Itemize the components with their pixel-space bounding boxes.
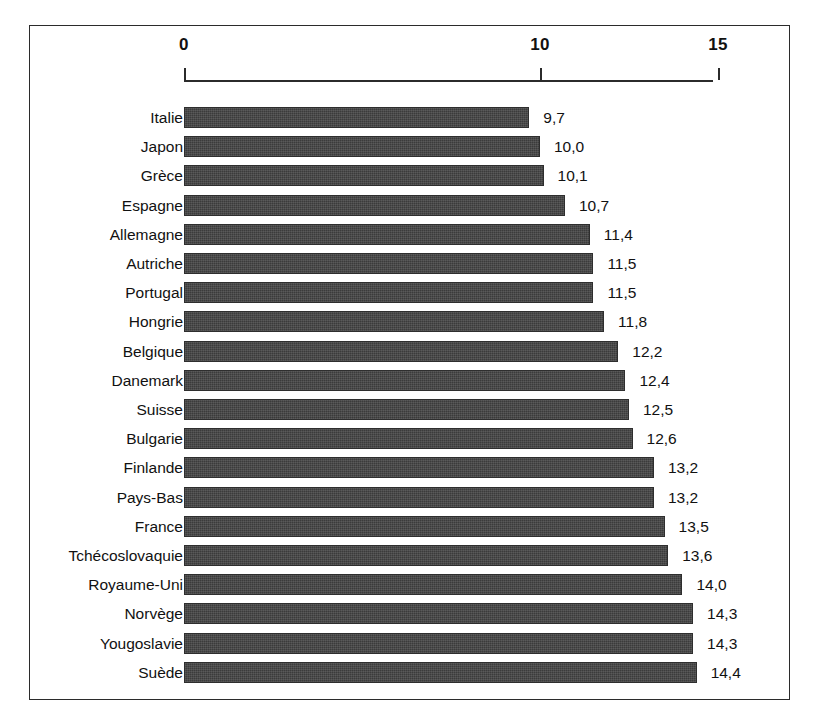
bar-row: Finlande13,2 [30, 457, 791, 478]
bar-value-label: 10,7 [579, 195, 609, 216]
bar-value-label: 10,1 [558, 165, 588, 186]
bar-value-label: 12,4 [639, 370, 669, 391]
category-label: Grèce [141, 165, 183, 186]
bar [184, 370, 625, 391]
category-label: Finlande [124, 457, 183, 478]
bar [184, 633, 693, 654]
category-label: Autriche [126, 253, 183, 274]
bar [184, 428, 633, 449]
bar-row: Pays-Bas13,2 [30, 487, 791, 508]
category-label: Suisse [136, 399, 183, 420]
category-label: Belgique [123, 341, 183, 362]
bar [184, 545, 668, 566]
category-label: Royaume-Uni [88, 574, 183, 595]
axis-tick-label: 0 [179, 35, 189, 55]
bar-row: Norvège14,3 [30, 603, 791, 624]
bar-row: Autriche11,5 [30, 253, 791, 274]
plot-area: Italie9,7Japon10,0Grèce10,1Espagne10,7Al… [30, 86, 791, 698]
bar-row: Tchécoslovaquie13,6 [30, 545, 791, 566]
bar [184, 457, 654, 478]
bar-value-label: 13,5 [679, 516, 709, 537]
bar-value-label: 11,5 [607, 253, 636, 274]
axis-tick-mark [540, 68, 542, 80]
bar-chart-figure: 01015 Italie9,7Japon10,0Grèce10,1Espagne… [0, 0, 813, 718]
axis-line [184, 80, 713, 82]
bar [184, 603, 693, 624]
bar-value-label: 14,4 [711, 662, 741, 683]
category-label: Tchécoslovaquie [68, 545, 183, 566]
bar [184, 516, 665, 537]
category-label: Espagne [122, 195, 183, 216]
bar-value-label: 11,8 [618, 311, 647, 332]
bar-value-label: 13,2 [668, 487, 698, 508]
bar [184, 165, 544, 186]
bar-row: Allemagne11,4 [30, 224, 791, 245]
bar [184, 662, 697, 683]
bar-value-label: 14,3 [707, 603, 737, 624]
axis-tick-label: 10 [530, 35, 550, 55]
bar-row: Japon10,0 [30, 136, 791, 157]
bar-row: Italie9,7 [30, 107, 791, 128]
bar [184, 311, 604, 332]
category-label: Norvège [124, 603, 183, 624]
bar-row: Espagne10,7 [30, 195, 791, 216]
bar-value-label: 11,5 [607, 282, 636, 303]
bar [184, 195, 565, 216]
bar-value-label: 14,0 [696, 574, 726, 595]
bar [184, 574, 682, 595]
top-value-axis: 01015 [30, 26, 791, 86]
category-label: Portugal [125, 282, 183, 303]
bar [184, 136, 540, 157]
bar-value-label: 12,6 [647, 428, 677, 449]
bar-row: Suisse12,5 [30, 399, 791, 420]
category-label: France [135, 516, 183, 537]
bar-value-label: 13,6 [682, 545, 712, 566]
bar-value-label: 9,7 [543, 107, 565, 128]
axis-tick-mark [184, 68, 186, 80]
bar [184, 107, 529, 128]
bar-row: Danemark12,4 [30, 370, 791, 391]
bar-value-label: 12,2 [632, 341, 662, 362]
bar [184, 399, 629, 420]
bar [184, 487, 654, 508]
axis-tick-mark [718, 68, 720, 80]
bar-row: Hongrie11,8 [30, 311, 791, 332]
bar-row: Portugal11,5 [30, 282, 791, 303]
category-label: Danemark [112, 370, 184, 391]
bar-row: France13,5 [30, 516, 791, 537]
category-label: Suède [138, 662, 183, 683]
bar-row: Yougoslavie14,3 [30, 633, 791, 654]
bar-row: Bulgarie12,6 [30, 428, 791, 449]
bar [184, 341, 618, 362]
category-label: Italie [150, 107, 183, 128]
bar-value-label: 13,2 [668, 457, 698, 478]
axis-tick-label: 15 [708, 35, 728, 55]
bar-row: Suède14,4 [30, 662, 791, 683]
bar-value-label: 12,5 [643, 399, 673, 420]
category-label: Bulgarie [126, 428, 183, 449]
bar-row: Belgique12,2 [30, 341, 791, 362]
bar-row: Royaume-Uni14,0 [30, 574, 791, 595]
category-label: Pays-Bas [117, 487, 183, 508]
bar [184, 253, 593, 274]
bar [184, 282, 593, 303]
category-label: Hongrie [129, 311, 183, 332]
category-label: Allemagne [110, 224, 183, 245]
category-label: Yougoslavie [100, 633, 183, 654]
bar [184, 224, 590, 245]
bar-value-label: 11,4 [604, 224, 633, 245]
bar-value-label: 10,0 [554, 136, 584, 157]
chart-frame: 01015 Italie9,7Japon10,0Grèce10,1Espagne… [29, 25, 790, 700]
bar-value-label: 14,3 [707, 633, 737, 654]
category-label: Japon [141, 136, 183, 157]
bar-row: Grèce10,1 [30, 165, 791, 186]
